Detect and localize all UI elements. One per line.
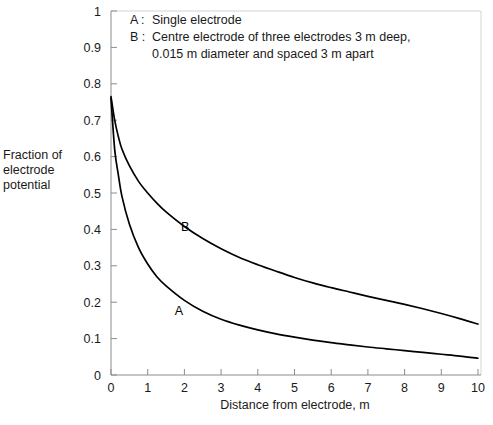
x-tick-label: 3: [218, 381, 225, 395]
y-axis-title-line-3: potential: [3, 178, 98, 193]
x-tick-label: 6: [328, 381, 335, 395]
curve-label-b: B: [181, 220, 189, 234]
y-axis-title-line-2: electrode: [3, 163, 98, 178]
y-tick-label: 0.7: [84, 114, 101, 128]
x-tick-label: 0: [108, 381, 115, 395]
curve-b: [111, 97, 478, 325]
chart-figure: Fraction of electrode potential A : Sing…: [0, 0, 493, 425]
y-tick-label: 0.9: [84, 41, 101, 55]
y-tick-label: 0.4: [84, 223, 101, 237]
legend-item-a: A : Single electrode: [130, 12, 470, 29]
x-tick-label: 5: [291, 381, 298, 395]
x-tick-label: 7: [364, 381, 371, 395]
chart-legend: A : Single electrode B : Centre electrod…: [130, 12, 470, 63]
x-tick-label: 10: [471, 381, 485, 395]
x-tick-label: 1: [144, 381, 151, 395]
legend-label-a: Single electrode: [152, 12, 470, 29]
x-axis-title: Distance from electrode, m: [111, 398, 479, 412]
legend-label-b-line-2: 0.015 m diameter and spaced 3 m apart: [152, 47, 374, 61]
legend-key-b: B :: [130, 29, 152, 46]
y-tick-label: 0: [94, 369, 101, 383]
y-axis-title: Fraction of electrode potential: [3, 148, 98, 193]
y-tick-label: 0.8: [84, 77, 101, 91]
curve-labels: AB: [175, 220, 190, 318]
y-tick-label: 0.1: [84, 332, 101, 346]
data-curves: [111, 97, 478, 359]
x-tick-label: 9: [438, 381, 445, 395]
legend-label-b: Centre electrode of three electrodes 3 m…: [152, 29, 470, 63]
plot-canvas: 00.10.20.30.40.50.60.70.80.9101234567891…: [0, 0, 493, 425]
x-tick-label: 4: [254, 381, 261, 395]
curve-a: [111, 98, 478, 358]
frame-outline: [111, 11, 481, 375]
y-tick-label: 0.2: [84, 296, 101, 310]
legend-key-a: A :: [130, 12, 152, 29]
legend-item-b: B : Centre electrode of three electrodes…: [130, 29, 470, 63]
x-tick-label: 2: [181, 381, 188, 395]
legend-label-b-line-1: Centre electrode of three electrodes 3 m…: [152, 30, 410, 44]
y-tick-label: 1: [94, 5, 101, 19]
axis-ticks: 00.10.20.30.40.50.60.70.80.9101234567891…: [84, 5, 485, 396]
y-tick-label: 0.3: [84, 259, 101, 273]
plot-frame: [111, 11, 481, 375]
x-tick-label: 8: [401, 381, 408, 395]
curve-label-a: A: [175, 304, 184, 318]
y-axis-title-line-1: Fraction of: [3, 148, 98, 163]
